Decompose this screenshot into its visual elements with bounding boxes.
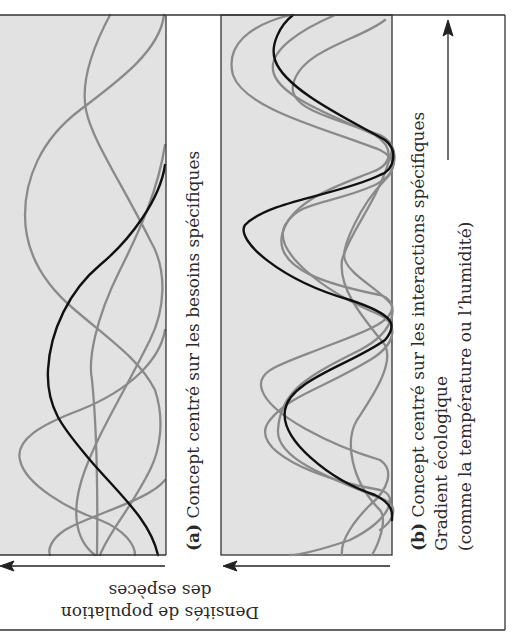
panel-a-caption: (a) Concept centré sur les besoins spéci…	[183, 151, 203, 551]
x-axis-label: Gradient écologique	[431, 376, 451, 551]
figure-canvas: (a) Concept centré sur les besoins spéci…	[0, 0, 517, 634]
y-axis-label-line2: des espèces	[108, 581, 211, 601]
x-axis-sublabel: (comme la température ou l’humidité)	[455, 222, 475, 551]
y-axis-label-line1: Densités de population	[61, 603, 259, 623]
panel-b-caption: (b) Concept centré sur les interactions …	[408, 112, 428, 551]
x-axis-arrow	[443, 20, 453, 160]
y-axis-arrows	[0, 561, 390, 571]
